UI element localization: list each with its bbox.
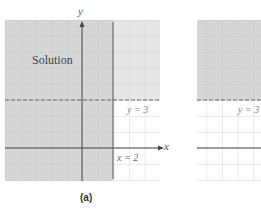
y-axis-label: y: [78, 5, 83, 17]
x-equals-2-label: x = 2: [117, 152, 138, 163]
x-axis-label: x: [164, 140, 169, 152]
panel-a-caption: (a): [80, 192, 92, 203]
y-equals-3-label-b: y = 3: [238, 104, 259, 115]
solution-label: Solution: [32, 53, 73, 68]
y-equals-3-label: y = 3: [127, 104, 148, 115]
panel-b: [197, 20, 261, 181]
panel-a: [5, 20, 164, 181]
